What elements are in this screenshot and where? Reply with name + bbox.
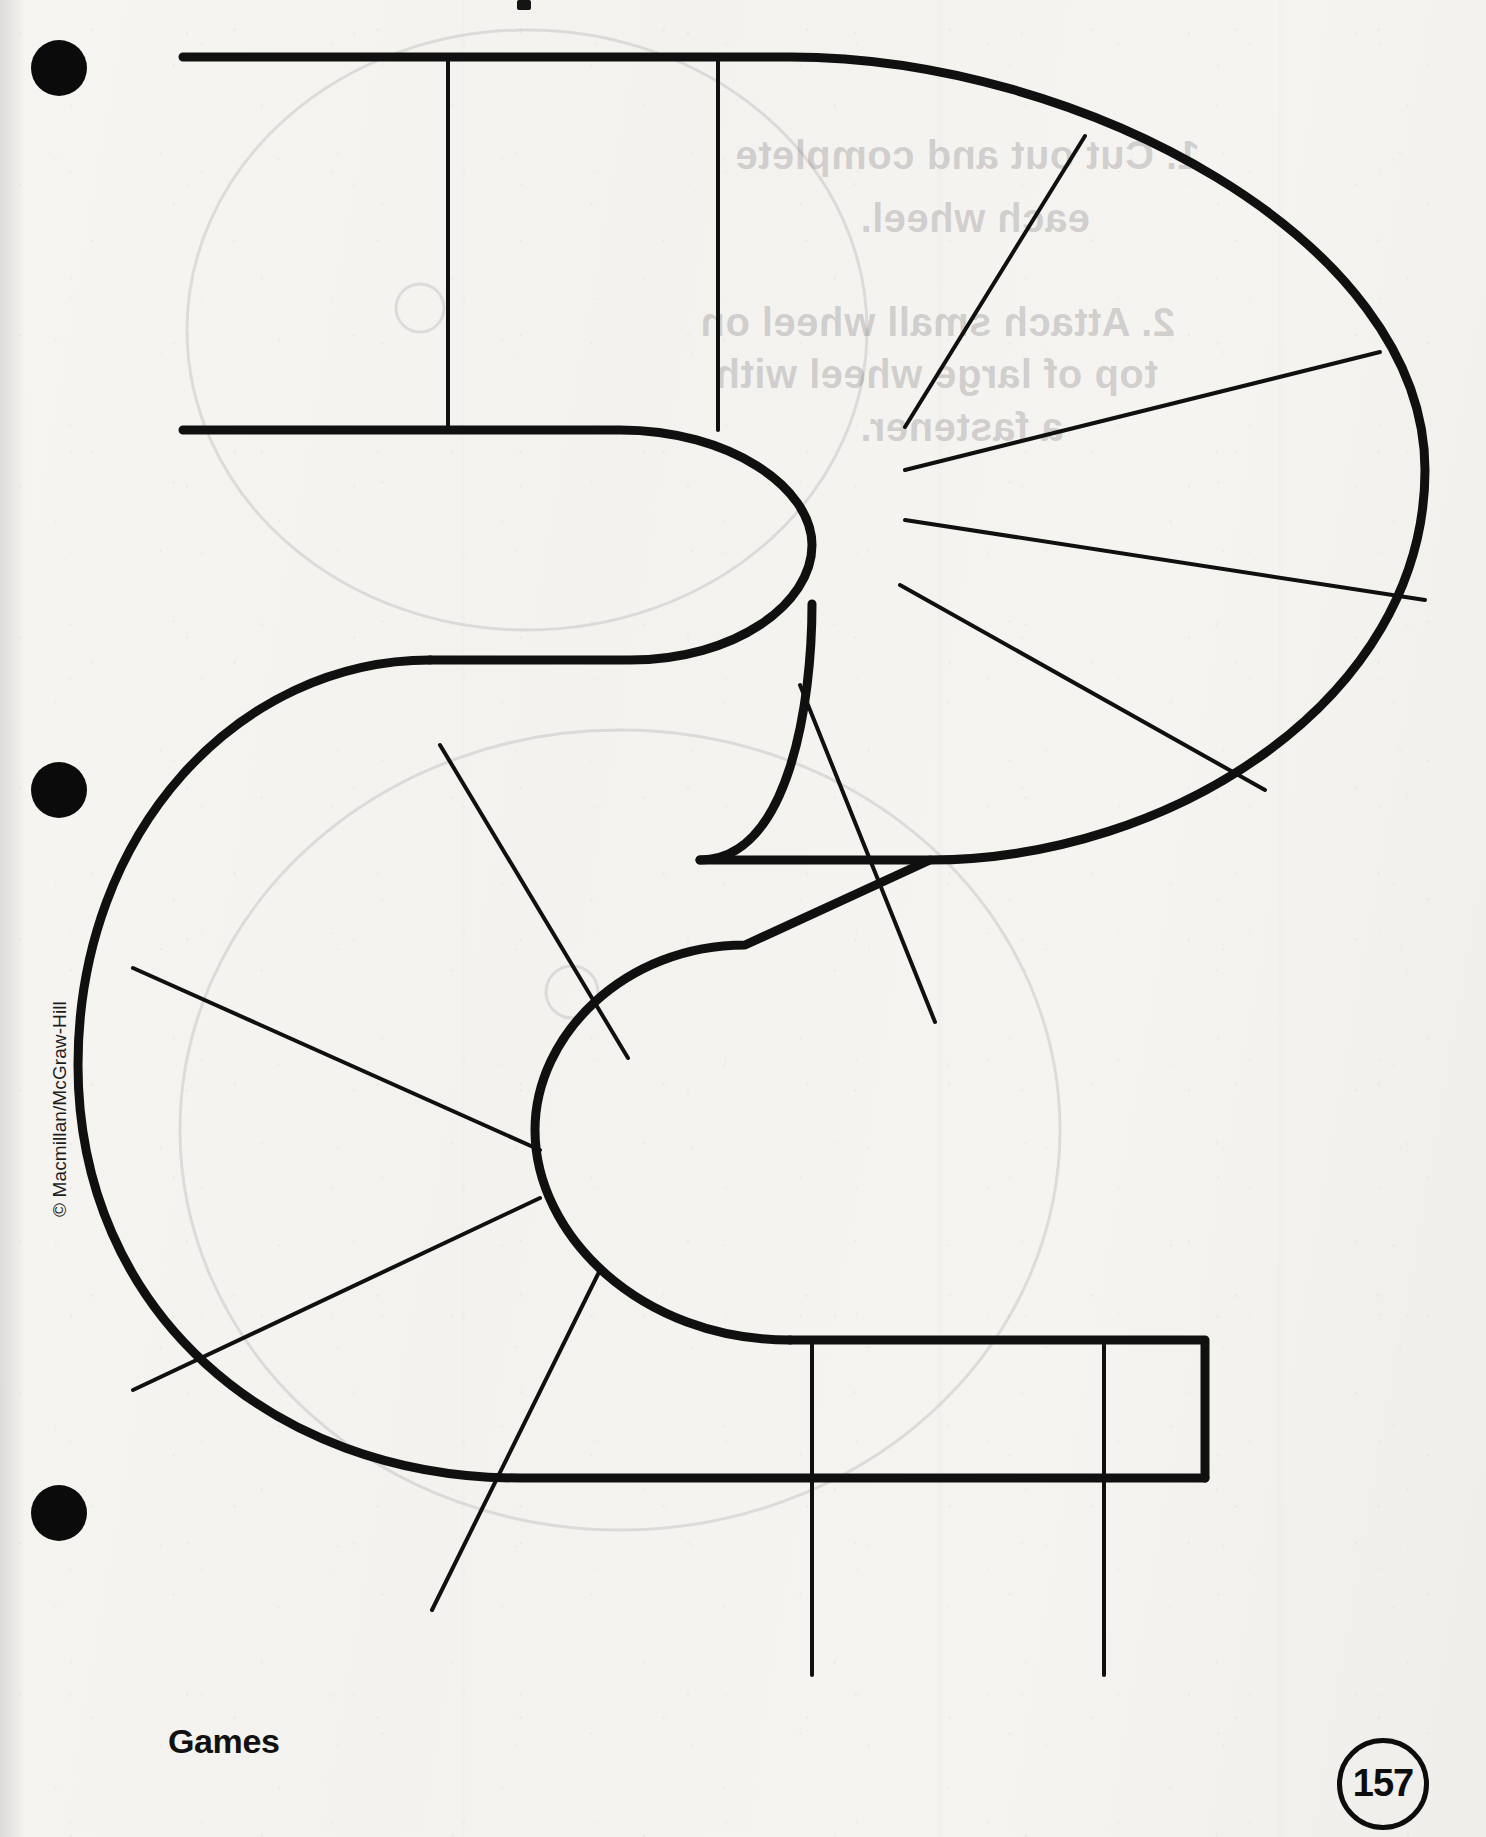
page-number-text: 157 xyxy=(1353,1764,1413,1802)
divider-6 xyxy=(900,585,1265,790)
divider-4 xyxy=(905,352,1380,470)
divider-3 xyxy=(905,136,1085,427)
hole-punch-top xyxy=(31,40,87,96)
divider-8 xyxy=(440,745,628,1058)
s-shaped-game-track xyxy=(0,0,1486,1837)
divider-11 xyxy=(432,1270,600,1610)
divider-9 xyxy=(133,968,540,1150)
hole-punch-bottom xyxy=(31,1485,87,1541)
page-number-badge: 157 xyxy=(1337,1738,1429,1830)
worksheet-page: 1. Cut out and complete each wheel. 2. A… xyxy=(0,0,1486,1837)
divider-5 xyxy=(905,520,1425,600)
page-section-label: Games xyxy=(168,1722,279,1761)
track-space-dividers xyxy=(133,57,1425,1675)
copyright-notice: © Macmillan/McGraw-Hill xyxy=(49,979,71,1239)
hole-punch-middle xyxy=(31,762,87,818)
divider-7 xyxy=(800,685,935,1022)
